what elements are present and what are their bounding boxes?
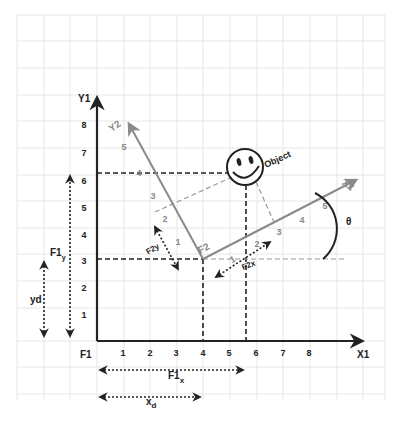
svg-text:7: 7 [280,348,285,358]
svg-text:7: 7 [81,148,86,158]
y2-axis [129,124,203,259]
svg-text:6: 6 [253,348,258,358]
svg-text:4: 4 [299,215,304,225]
svg-text:5: 5 [81,203,86,213]
theta-label: θ [346,216,351,227]
svg-text:3: 3 [173,348,178,358]
y2-tick-labels: 1 2 3 4 5 [121,142,180,247]
svg-text:8: 8 [81,120,86,130]
svg-text:1: 1 [175,237,180,247]
svg-text:1: 1 [120,348,125,358]
f1-projection-lines [97,173,246,341]
y1-tick-labels: 1 2 3 4 5 6 7 8 [81,120,86,320]
svg-text:1: 1 [81,310,86,320]
yd-label: yd [30,294,42,305]
svg-text:8: 8 [306,348,311,358]
svg-text:6: 6 [81,176,86,186]
svg-text:3: 3 [150,191,155,201]
f2-origin-label: F2 [196,240,212,255]
svg-text:4: 4 [81,230,86,240]
svg-text:3: 3 [276,227,281,237]
f2x-label: F2x [241,259,258,272]
svg-text:3: 3 [81,256,86,266]
f1x-label: F1x [168,370,185,385]
dimension-arrows [44,176,270,397]
f2-projection-lines [155,178,345,259]
svg-text:4: 4 [136,168,141,178]
object-smiley-icon [227,149,263,185]
frame-transform-diagram: 1 2 3 4 5 6 7 8 1 2 3 4 5 6 7 8 X1 Y1 F1… [0,0,398,428]
x1-tick-labels: 1 2 3 4 5 6 7 8 [120,348,311,358]
x1-axis-label: X1 [357,349,370,360]
svg-text:5: 5 [121,142,126,152]
svg-text:4: 4 [200,348,205,358]
x2-tick-labels: 1 2 3 4 5 [228,201,327,265]
svg-text:2: 2 [81,283,86,293]
y1-axis-label: Y1 [78,93,91,104]
svg-text:2: 2 [162,214,167,224]
svg-text:2: 2 [147,348,152,358]
xd-label: xd [146,396,157,410]
y2-axis-label: Y2 [106,118,123,134]
svg-text:5: 5 [226,348,231,358]
f1y-label: F1y [50,247,66,262]
x2-axis-label: X2 [340,177,357,193]
object-label: Object [263,149,293,170]
svg-text:2: 2 [254,239,259,249]
f1-origin-label: F1 [80,349,92,360]
